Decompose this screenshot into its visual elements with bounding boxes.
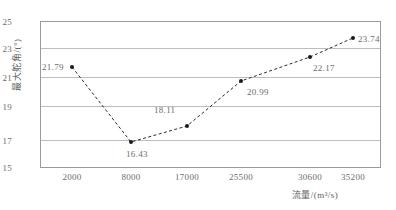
gridline-21 (41, 77, 380, 78)
gridline-23 (41, 48, 380, 49)
data-point-marker[interactable] (185, 124, 189, 128)
x-tick-label: 17000 (157, 173, 217, 182)
data-point-label: 22.17 (313, 64, 335, 73)
gridline-19 (41, 106, 380, 107)
gridline-17 (41, 140, 380, 141)
x-tick-label: 35200 (323, 173, 383, 182)
data-point-label: 21.79 (42, 63, 64, 72)
data-point-marker[interactable] (70, 65, 74, 69)
plot-area (40, 21, 381, 168)
data-point-label: 20.99 (247, 88, 269, 97)
data-point-marker[interactable] (308, 55, 312, 59)
y-tick-label: 25 (0, 18, 12, 27)
x-axis-title: 流量/(m³/s) (250, 188, 380, 201)
chart-container: 最大舵角/(°) 25 23 21 19 17 15 21.79 16.43 1… (0, 0, 396, 210)
y-axis-title: 最大舵角/(°) (10, 17, 23, 113)
y-tick-label: 15 (0, 164, 12, 173)
data-point-label: 23.74 (358, 35, 380, 44)
top-artifact-text (55, 1, 225, 10)
y-tick-label: 23 (0, 45, 12, 54)
y-tick-label: 19 (0, 103, 12, 112)
x-tick-label: 25500 (211, 173, 271, 182)
data-point-marker[interactable] (129, 140, 133, 144)
data-point-label: 18.11 (154, 106, 175, 115)
x-tick-label: 8000 (101, 173, 161, 182)
x-tick-label: 2000 (42, 173, 102, 182)
data-point-marker[interactable] (239, 79, 243, 83)
data-point-label: 16.43 (126, 150, 148, 159)
y-tick-label: 21 (0, 74, 12, 83)
data-point-marker[interactable] (351, 36, 355, 40)
y-tick-label: 17 (0, 137, 12, 146)
